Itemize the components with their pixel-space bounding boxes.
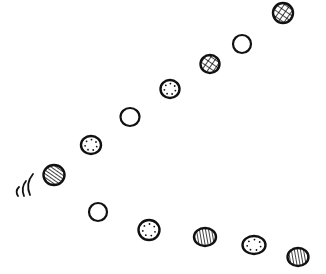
circle-hatch-vertical-icon <box>194 228 216 246</box>
bouncing-balls-drawing <box>0 0 326 274</box>
circle-hatch-vertical-icon <box>288 248 309 266</box>
circle-crosshatch-icon <box>273 3 293 23</box>
circle-dots-icon <box>161 80 180 98</box>
circle-empty-icon <box>89 203 107 221</box>
circle-dots-icon <box>243 236 266 254</box>
motion-line-icon <box>23 181 26 196</box>
circle-dots-icon <box>81 136 101 154</box>
circle-empty-icon <box>121 108 140 126</box>
circle-dots-icon <box>139 220 160 240</box>
motion-line-icon <box>17 187 19 196</box>
motion-lines-group <box>17 174 33 196</box>
circles-group <box>44 3 309 266</box>
circle-crosshatch-icon <box>201 55 220 73</box>
illustration-canvas <box>0 0 326 274</box>
circle-empty-icon <box>233 35 251 53</box>
circle-hatch-diagonal-icon <box>44 165 65 185</box>
motion-line-icon <box>28 174 33 195</box>
